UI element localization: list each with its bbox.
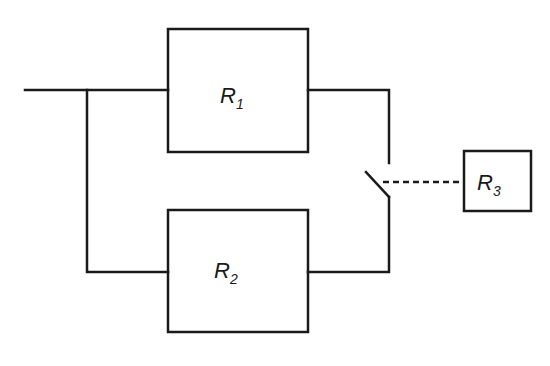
block-r3 — [464, 151, 531, 211]
parallel-redundancy-diagram: R1 R2 R3 — [0, 0, 550, 366]
label-r2: R2 — [214, 258, 238, 287]
branch-wire-r2 — [87, 90, 168, 272]
r1-output-wire — [308, 90, 389, 163]
block-r2 — [168, 210, 308, 332]
r2-output-wire — [308, 197, 389, 272]
switch-blade — [366, 172, 389, 197]
label-r3: R3 — [477, 170, 501, 199]
block-r1 — [168, 29, 308, 152]
label-r1: R1 — [220, 83, 244, 112]
